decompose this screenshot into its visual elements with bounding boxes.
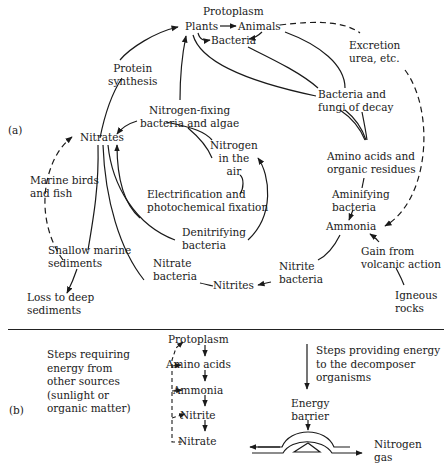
chain-protoplasm: Protoplasm	[168, 333, 229, 346]
node-bacteria-fungi-decay: Bacteria and fungi of decay	[318, 88, 393, 114]
node-nitrogen-air: Nitrogen in the air	[210, 139, 258, 178]
node-ammonia: Ammonia	[326, 220, 376, 233]
node-excretion: Excretion urea, etc.	[349, 39, 400, 65]
node-shallow-marine: Shallow marine sediments	[48, 244, 131, 270]
chain-amino-acids: Amino acids	[166, 358, 231, 371]
node-igneous-rocks: Igneous rocks	[395, 289, 437, 315]
node-marine-birds-fish: Marine birds and fish	[30, 174, 99, 200]
node-aminifying-bacteria: Aminifying bacteria	[332, 188, 390, 214]
node-nitrites: Nitrites	[213, 279, 254, 292]
panel-b-right-caption: Steps providing energy to the decomposer…	[316, 344, 440, 385]
energy-barrier-label: Energy barrier	[291, 397, 329, 423]
node-nitrate-bacteria: Nitrate bacteria	[153, 257, 197, 283]
node-electrification: Electrification and photochemical fixati…	[147, 188, 268, 214]
node-nitrates: Nitrates	[80, 131, 124, 144]
node-protoplasm: Protoplasm	[203, 5, 264, 18]
node-gain-volcanic: Gain from volcanic action	[361, 245, 441, 271]
node-nitrite-bacteria: Nitrite bacteria	[279, 260, 323, 286]
node-protein-synthesis: Protein synthesis	[108, 62, 157, 88]
chain-ammonia: Ammonia	[173, 384, 223, 397]
node-denitrifying-bacteria: Denitrifying bacteria	[182, 226, 246, 252]
node-loss-deep: Loss to deep sediments	[27, 291, 94, 317]
panel-b-left-caption: Steps requiring energy from other source…	[47, 348, 131, 416]
panel-b-label: (b)	[9, 404, 24, 417]
chain-nitrate: Nitrate	[178, 435, 216, 448]
node-animals: Animals	[238, 20, 281, 33]
node-bacteria: Bacteria	[211, 34, 256, 47]
panel-a-label: (a)	[8, 124, 22, 137]
chain-nitrite: Nitrite	[180, 409, 216, 422]
node-nitrogen-fixing: Nitrogen-fixing bacteria and algae	[140, 104, 239, 130]
node-amino-acids-residues: Amino acids and organic residues	[327, 150, 416, 176]
nitrogen-gas-label: Nitrogen gas	[374, 438, 422, 464]
panel-divider	[8, 329, 444, 330]
node-plants: Plants	[185, 20, 218, 33]
